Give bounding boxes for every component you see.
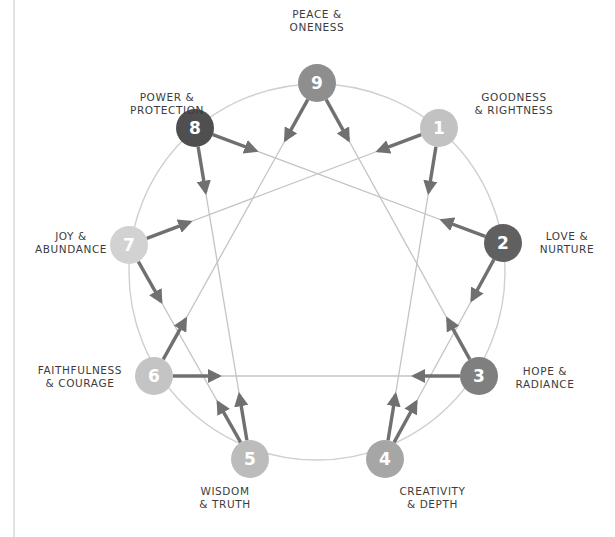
direction-arrows [138,100,494,443]
label-line: RADIANCE [505,378,585,391]
node-1: 1 [420,109,458,147]
arrow-8-to-5 [198,147,206,192]
label-line: PEACE & [270,8,364,21]
arrow-7-to-5 [138,262,161,302]
label-line: HOPE & [505,365,585,378]
label-line: GOODNESS [458,91,570,104]
label-line: CREATIVITY [390,485,475,498]
label-line: FAITHFULNESS [25,364,135,377]
label-type-4: CREATIVITY& DEPTH [390,485,475,511]
node-5: 5 [231,440,269,478]
arrow-1-to-4 [429,147,436,192]
arrow-5-to-7 [218,402,241,442]
label-line: & COURAGE [25,377,135,390]
node-2: 2 [484,224,522,262]
node-number: 7 [123,235,135,255]
label-line: & DEPTH [390,498,475,511]
label-type-7: JOY &ABUNDANCE [28,230,114,256]
enneagram-diagram: 123456789 [0,0,615,537]
arrow-9-to-6 [285,100,307,140]
label-line: JOY & [28,230,114,243]
label-line: NURTURE [527,243,607,256]
node-4: 4 [366,440,404,478]
arrow-2-to-4 [472,260,494,300]
node-3: 3 [460,357,498,395]
label-type-5: WISDOM& TRUTH [185,485,265,511]
label-line: WISDOM [185,485,265,498]
label-type-1: GOODNESS& RIGHTNESS [458,91,570,117]
node-number: 5 [244,449,256,469]
label-line: PROTECTION [118,104,216,117]
label-line: LOVE & [527,230,607,243]
label-type-9: PEACE &ONENESS [270,8,364,34]
node-6: 6 [135,357,173,395]
arrow-7-to-1 [147,222,190,238]
node-number: 2 [497,233,509,253]
label-type-3: HOPE &RADIANCE [505,365,585,391]
arrow-4-to-2 [394,402,416,442]
label-line: & TRUTH [185,498,265,511]
label-type-8: POWER &PROTECTION [118,91,216,117]
node-number: 1 [433,118,445,138]
node-number: 8 [189,118,201,138]
arrow-2-to-8 [442,220,485,236]
node-number: 3 [473,366,485,386]
arrow-1-to-7 [378,135,421,151]
label-line: POWER & [118,91,216,104]
label-type-2: LOVE &NURTURE [527,230,607,256]
node-number: 4 [379,449,391,469]
arrow-9-to-3 [326,100,348,140]
label-line: ONENESS [270,21,364,34]
type-nodes: 123456789 [110,64,522,478]
label-line: ABUNDANCE [28,243,114,256]
label-line: & RIGHTNESS [458,104,570,117]
node-9: 9 [298,64,336,102]
arrow-4-to-1 [388,395,395,440]
label-type-6: FAITHFULNESS& COURAGE [25,364,135,390]
node-number: 6 [148,366,160,386]
node-number: 9 [311,73,323,93]
node-7: 7 [110,226,148,264]
arrow-8-to-2 [213,135,256,151]
arrow-5-to-8 [239,395,247,440]
